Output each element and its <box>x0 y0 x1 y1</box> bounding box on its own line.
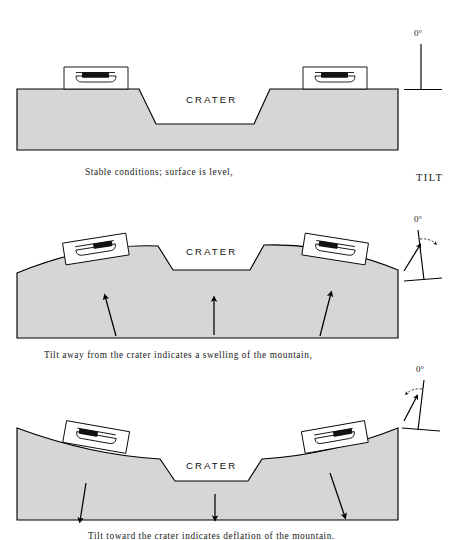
tiltmeter-right-1 <box>303 67 367 89</box>
tilt-indicator-1: 0° <box>404 28 442 90</box>
tilt-indicator-2: 0° <box>404 214 442 281</box>
tilt-arrow-2 <box>404 245 420 271</box>
tiltmeter-diagram: CRATER 0° <box>0 0 463 540</box>
caption-panel-2: Tilt away from the crater indicates a sw… <box>44 350 312 360</box>
tilt-arc-3 <box>406 389 422 394</box>
tiltmeter-left-1 <box>64 67 128 89</box>
caption-panel-3: Tilt toward the crater indicates deflati… <box>88 531 335 540</box>
caption-panel-1: Stable conditions; surface is level, <box>85 167 233 177</box>
figure-page: CRATER 0° <box>0 0 463 540</box>
degree-label-3: 0° <box>416 364 425 374</box>
crater-label-1: CRATER <box>186 94 237 105</box>
degree-label-2: 0° <box>414 214 423 224</box>
panel-swelling: CRATER 0° <box>17 214 442 338</box>
tilt-arrow-3 <box>404 396 417 421</box>
tilt-indicator-3: 0° <box>402 364 440 431</box>
tilt-heading: TILT <box>416 172 443 183</box>
panel-subsiding: CRATER 0° <box>17 364 440 521</box>
tilt-arc-2 <box>420 239 436 244</box>
crater-label-2: CRATER <box>186 246 237 257</box>
degree-label-1: 0° <box>414 28 423 38</box>
crater-label-3: CRATER <box>186 460 237 471</box>
panel-stable: CRATER 0° <box>17 28 442 150</box>
